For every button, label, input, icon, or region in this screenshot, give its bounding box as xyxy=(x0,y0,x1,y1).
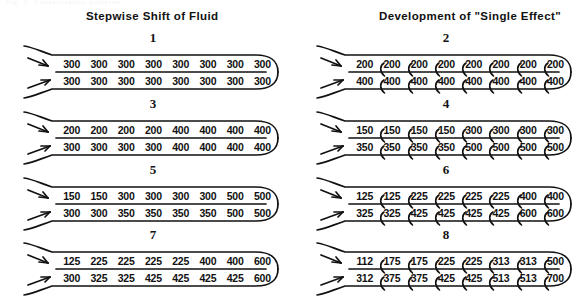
panel-3-lower-cell: 400 xyxy=(194,140,221,155)
panel-8-lower-stream: 312375 375 425 425 513 513 700 xyxy=(351,271,569,286)
panel-4: 4 150150 150 150 300 xyxy=(315,110,577,166)
panel-5-upper-cell: 300 xyxy=(167,189,194,204)
panel-6-lower-cell: 325 xyxy=(378,206,405,221)
panel-7-upper-cell: 400 xyxy=(222,254,249,269)
panel-5-lower-cell: 350 xyxy=(140,206,167,221)
panel-2-upper-cell: 200 xyxy=(487,57,514,72)
panel-7-upper-cell: 225 xyxy=(113,254,140,269)
panel-7-upper-cell: 225 xyxy=(167,254,194,269)
panel-6-upper-cell: 400 xyxy=(515,189,542,204)
panel-8-upper-cell: 313 xyxy=(515,254,542,269)
panel-7: 7 12522522522522540040060030032532542542… xyxy=(22,241,284,297)
panel-2-upper-stream: 200200 200 200 200 200 200 200 xyxy=(351,57,569,72)
panel-1-upper-stream: 300300300300300300300300 xyxy=(58,57,276,72)
panel-3-lower-cell: 400 xyxy=(167,140,194,155)
panel-2-lower-cell: 400 xyxy=(460,74,487,89)
panel-2-upper-cell: 200 xyxy=(433,57,460,72)
panel-7-lower-cell: 600 xyxy=(249,271,276,286)
panel-2-upper-cell: 200 xyxy=(515,57,542,72)
panel-3-upper-cell: 400 xyxy=(194,123,221,138)
panel-6-upper-cell: 125 xyxy=(351,189,378,204)
panel-8-upper-cell: 175 xyxy=(378,254,405,269)
panel-7-lower-stream: 300325325425425425425600 xyxy=(58,271,276,286)
panel-5-lower-cell: 500 xyxy=(249,206,276,221)
panel-1: 1 30030030030030030030030030030030030030… xyxy=(22,44,284,100)
panel-2-lower-cell: 400 xyxy=(378,74,405,89)
panel-2-upper-cell: 200 xyxy=(351,57,378,72)
panel-2-upper-cell: 200 xyxy=(378,57,405,72)
panel-6-upper-stream: 125125 225 225 225 225 400 400 xyxy=(351,189,569,204)
channel-outline xyxy=(315,176,577,232)
panel-8-lower-cell: 375 xyxy=(378,271,405,286)
panel-1-lower-cell: 300 xyxy=(249,74,276,89)
panel-4-lower-cell: 350 xyxy=(433,140,460,155)
panel-5-lower-cell: 300 xyxy=(58,206,85,221)
channel-outline xyxy=(315,241,577,297)
panel-3-lower-cell: 300 xyxy=(58,140,85,155)
panel-3-lower-stream: 300300300300400400400400 xyxy=(58,140,276,155)
panel-2-lower-cell: 400 xyxy=(433,74,460,89)
panel-1-lower-cell: 300 xyxy=(222,74,249,89)
panel-7-lower-cell: 425 xyxy=(194,271,221,286)
faint-cropped-caption: Fig. 3. Concentration patterns xyxy=(0,0,578,7)
panel-8-lower-cell: 375 xyxy=(406,271,433,286)
panel-2-number: 2 xyxy=(315,31,577,44)
panel-5-upper-cell: 150 xyxy=(58,189,85,204)
panel-5-lower-cell: 350 xyxy=(167,206,194,221)
panel-8-upper-cell: 500 xyxy=(542,254,569,269)
panel-6-lower-stream: 325325 425 425 425 425 600 600 xyxy=(351,206,569,221)
panel-3-upper-cell: 200 xyxy=(113,123,140,138)
panel-1-upper-cell: 300 xyxy=(140,57,167,72)
panel-8-lower-cell: 513 xyxy=(515,271,542,286)
panel-4-lower-cell: 350 xyxy=(351,140,378,155)
panel-2-upper-cell: 200 xyxy=(460,57,487,72)
panel-7-lower-cell: 325 xyxy=(113,271,140,286)
panel-5-number: 5 xyxy=(22,163,284,176)
panel-3-lower-cell: 300 xyxy=(113,140,140,155)
panel-6-lower-cell: 325 xyxy=(351,206,378,221)
panel-4-upper-stream: 150150 150 150 300 300 300 300 xyxy=(351,123,569,138)
panel-6-lower-cell: 600 xyxy=(515,206,542,221)
panel-4-upper-cell: 150 xyxy=(351,123,378,138)
panel-4-upper-cell: 150 xyxy=(378,123,405,138)
panel-8-upper-cell: 175 xyxy=(406,254,433,269)
channel-outline xyxy=(22,110,284,166)
panel-4-lower-cell: 350 xyxy=(378,140,405,155)
panel-7-upper-cell: 400 xyxy=(194,254,221,269)
panel-7-upper-stream: 125225225225225400400600 xyxy=(58,254,276,269)
panel-8: 8 112175 175 225 225 xyxy=(315,241,577,297)
panel-4-upper-cell: 150 xyxy=(406,123,433,138)
panel-1-lower-cell: 300 xyxy=(113,74,140,89)
panel-5-upper-cell: 500 xyxy=(249,189,276,204)
panel-3-upper-stream: 200200200200400400400400 xyxy=(58,123,276,138)
panel-8-lower-cell: 425 xyxy=(433,271,460,286)
panel-5-upper-cell: 500 xyxy=(222,189,249,204)
panel-6-lower-cell: 425 xyxy=(460,206,487,221)
panel-5-lower-cell: 350 xyxy=(113,206,140,221)
panel-6-upper-cell: 225 xyxy=(487,189,514,204)
column-header-right: Development of "Single Effect" xyxy=(379,10,561,22)
panel-1-upper-cell: 300 xyxy=(58,57,85,72)
panel-4-lower-cell: 500 xyxy=(460,140,487,155)
panel-2: 2 200200 200 200 200 xyxy=(315,44,577,100)
panel-7-lower-cell: 425 xyxy=(167,271,194,286)
panel-6-lower-cell: 425 xyxy=(487,206,514,221)
panel-8-upper-stream: 112175 175 225 225 313 313 500 xyxy=(351,254,569,269)
panel-2-lower-cell: 400 xyxy=(542,74,569,89)
panel-6-upper-cell: 400 xyxy=(542,189,569,204)
panel-2-upper-cell: 200 xyxy=(406,57,433,72)
panel-8-upper-cell: 225 xyxy=(460,254,487,269)
panel-4-upper-cell: 300 xyxy=(515,123,542,138)
panel-6: 6 125125 225 225 225 xyxy=(315,176,577,232)
panel-3-upper-cell: 400 xyxy=(167,123,194,138)
panel-8-upper-cell: 112 xyxy=(351,254,378,269)
panel-7-lower-cell: 300 xyxy=(58,271,85,286)
panel-7-upper-cell: 600 xyxy=(249,254,276,269)
panel-1-lower-cell: 300 xyxy=(167,74,194,89)
panel-8-number: 8 xyxy=(315,228,577,241)
panel-2-upper-cell: 200 xyxy=(542,57,569,72)
panel-8-lower-cell: 312 xyxy=(351,271,378,286)
panel-3-upper-cell: 200 xyxy=(85,123,112,138)
panel-5-lower-cell: 350 xyxy=(194,206,221,221)
panel-4-lower-cell: 500 xyxy=(515,140,542,155)
